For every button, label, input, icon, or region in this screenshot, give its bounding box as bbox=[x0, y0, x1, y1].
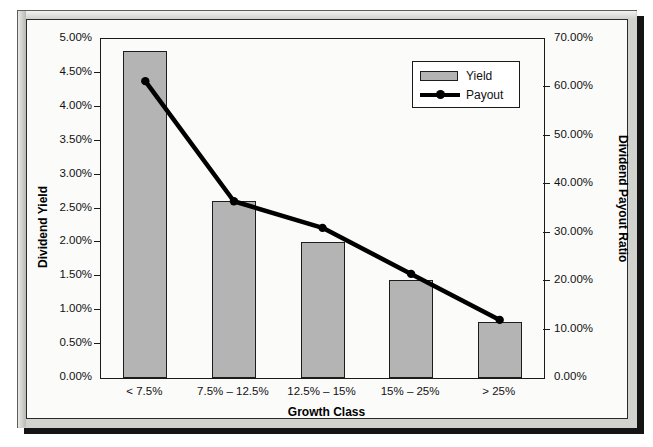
y-axis-left-tick-label: 1.00% bbox=[38, 303, 92, 315]
frame-bevel-highlight-top bbox=[18, 11, 636, 19]
frame-bevel-highlight-left bbox=[18, 11, 26, 427]
y-axis-left-tick-label: 5.00% bbox=[38, 32, 92, 44]
y-axis-left-tick-label: 4.00% bbox=[38, 100, 92, 112]
legend-marker-dot-icon bbox=[436, 90, 445, 99]
legend-item-payout: Payout bbox=[420, 87, 516, 103]
y-axis-left-tick-label: 3.00% bbox=[38, 168, 92, 180]
y-axis-left-tick-label: 2.50% bbox=[38, 202, 92, 214]
y-axis-left-tick-label: 2.00% bbox=[38, 235, 92, 247]
y-axis-right-tick-label: 10.00% bbox=[554, 323, 593, 335]
y-axis-right-tick-label: 40.00% bbox=[554, 177, 593, 189]
y-axis-right-tick-label: 70.00% bbox=[554, 32, 593, 44]
y-axis-right-tick-label: 50.00% bbox=[554, 129, 593, 141]
legend-item-yield: Yield bbox=[420, 68, 516, 84]
y-axis-right-tick-label: 60.00% bbox=[554, 80, 593, 92]
y-axis-right-tick-label: 0.00% bbox=[554, 371, 587, 383]
legend-label-yield: Yield bbox=[466, 69, 492, 83]
y-axis-left-tick-label: 1.50% bbox=[38, 269, 92, 281]
payout-data-point bbox=[496, 316, 504, 324]
y-axis-left-tick-label: 4.50% bbox=[38, 66, 92, 78]
y-axis-left-tick-label: 3.50% bbox=[38, 134, 92, 146]
y-axis-right-title: Dividend Payout Ratio bbox=[616, 135, 630, 262]
payout-line bbox=[145, 81, 499, 320]
legend-swatch-icon bbox=[420, 71, 458, 81]
y-axis-right-tick-label: 30.00% bbox=[554, 226, 593, 238]
payout-data-point bbox=[141, 77, 149, 85]
payout-data-point bbox=[318, 224, 326, 232]
x-axis-title: Growth Class bbox=[0, 405, 653, 419]
y-axis-left-tick-label: 0.00% bbox=[38, 371, 92, 383]
x-axis-tick-label: > 25% bbox=[439, 386, 559, 398]
y-axis-left-tick-label: 0.50% bbox=[38, 337, 92, 349]
y-axis-left-title: Dividend Yield bbox=[36, 186, 50, 268]
payout-data-point bbox=[407, 270, 415, 278]
chart-figure: Dividend Yield Dividend Payout Ratio Gro… bbox=[0, 0, 653, 447]
y-axis-right-tick-label: 20.00% bbox=[554, 274, 593, 286]
legend-label-payout: Payout bbox=[466, 88, 503, 102]
payout-data-point bbox=[230, 197, 238, 205]
chart-legend: Yield Payout bbox=[412, 61, 520, 108]
